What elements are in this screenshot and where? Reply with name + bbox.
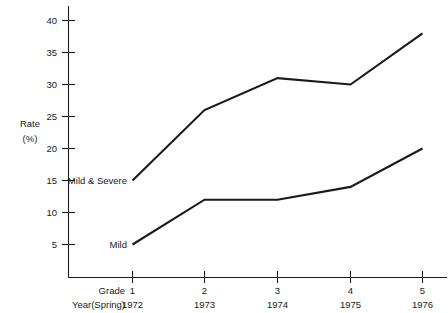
y-tick-label-40: 40 <box>46 15 57 26</box>
x-tick-label-year-5: 1976 <box>412 299 433 310</box>
y-tick-label-15: 15 <box>46 175 57 186</box>
x-tick-label-grade-4: 4 <box>348 285 353 296</box>
x-tick-label-grade-3: 3 <box>275 285 280 296</box>
x-row-header-grade: Grade <box>99 285 125 296</box>
y-tick-label-25: 25 <box>46 111 57 122</box>
series-label-mild-severe: Mild & Severe <box>68 175 127 186</box>
series-line-mild-severe <box>133 33 423 180</box>
x-tick-label-year-3: 1974 <box>267 299 288 310</box>
series-line-mild <box>133 149 423 245</box>
x-tick-label-grade-1: 1 <box>130 285 135 296</box>
y-tick-label-10: 10 <box>46 207 57 218</box>
x-tick-label-year-1: 1972 <box>122 299 143 310</box>
y-axis-title-line1: Rate <box>20 118 40 129</box>
line-chart: 40 35 30 25 20 15 10 5 Rate (%) Grade 1 … <box>0 0 448 313</box>
y-tick-label-20: 20 <box>46 143 57 154</box>
x-tick-label-year-2: 1973 <box>194 299 215 310</box>
x-tick-label-year-4: 1975 <box>340 299 361 310</box>
y-axis-title-line2: (%) <box>23 133 38 144</box>
x-tick-label-grade-5: 5 <box>420 285 425 296</box>
chart-canvas: 40 35 30 25 20 15 10 5 Rate (%) Grade 1 … <box>0 0 448 313</box>
x-tick-label-grade-2: 2 <box>202 285 207 296</box>
y-tick-label-35: 35 <box>46 47 57 58</box>
series-label-mild: Mild <box>110 239 127 250</box>
x-row-header-year: Year(Spring) <box>72 299 125 310</box>
y-tick-label-30: 30 <box>46 79 57 90</box>
y-tick-label-5: 5 <box>52 239 57 250</box>
